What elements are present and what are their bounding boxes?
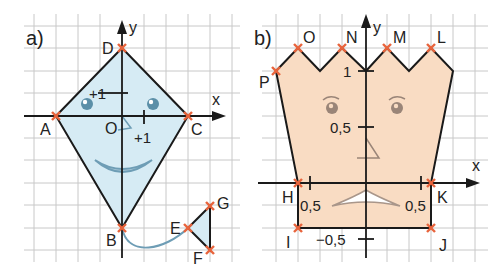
right-eye-icon-b (391, 102, 403, 114)
y-arrow-a (117, 20, 127, 34)
label-M: M (393, 29, 406, 46)
label-A: A (40, 121, 51, 138)
y-arrow-b (361, 14, 371, 28)
right-eye-icon (147, 98, 159, 110)
panel-a-label: a) (26, 27, 44, 49)
label-O: O (303, 29, 315, 46)
label-B: B (106, 232, 117, 249)
triangle-EFG (188, 206, 210, 250)
tick-y-1: 1 (343, 63, 351, 80)
label-I: I (286, 234, 290, 251)
label-D: D (102, 40, 114, 57)
tick-x-plus1: +1 (134, 129, 151, 146)
tick-x-right-0-5: 0,5 (405, 197, 426, 214)
y-axis-label-b: y (373, 19, 381, 36)
x-axis-label-b: x (472, 157, 480, 174)
x-arrow-a (212, 111, 226, 121)
label-E: E (170, 220, 181, 237)
coordinate-figures: a) y x D A C B E G F O +1 +1 (0, 0, 504, 269)
tick-y-plus1: +1 (89, 85, 106, 102)
x-axis-label-a: x (212, 91, 220, 108)
left-eye-icon-b (326, 102, 338, 114)
label-C: C (191, 121, 203, 138)
label-K: K (437, 189, 448, 206)
y-axis-label-a: y (129, 19, 137, 36)
tick-y-neg-0-5: −0,5 (316, 231, 346, 248)
label-G: G (217, 195, 229, 212)
label-N: N (346, 29, 358, 46)
label-F: F (193, 250, 203, 267)
label-L: L (437, 29, 446, 46)
tick-y-0-5: 0,5 (330, 119, 351, 136)
tick-x-left-0-5: 0,5 (300, 197, 321, 214)
label-P: P (259, 74, 270, 91)
label-H: H (282, 189, 294, 206)
panel-b-label: b) (254, 27, 272, 49)
x-arrow-b (466, 178, 480, 188)
origin-label: O (105, 120, 117, 137)
label-J: J (439, 237, 447, 254)
